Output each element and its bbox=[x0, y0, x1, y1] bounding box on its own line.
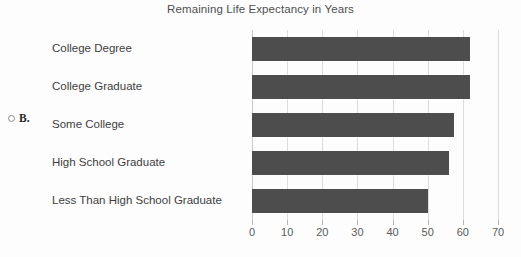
x-tick-label: 50 bbox=[422, 226, 434, 238]
tick-mark-0 bbox=[252, 220, 253, 225]
gridline-70 bbox=[498, 30, 499, 220]
tick-mark-30 bbox=[357, 220, 358, 225]
bar bbox=[252, 151, 449, 175]
x-tick-label: 70 bbox=[492, 226, 504, 238]
category-label: College Graduate bbox=[52, 81, 142, 93]
x-tick-label: 0 bbox=[249, 226, 255, 238]
plot-area: 010203040506070 bbox=[252, 30, 498, 220]
radio-unselected-icon[interactable] bbox=[8, 115, 15, 122]
bar bbox=[252, 37, 470, 61]
x-tick-label: 30 bbox=[351, 226, 363, 238]
category-label: Some College bbox=[52, 119, 124, 131]
category-label: Less Than High School Graduate bbox=[52, 195, 222, 207]
tick-mark-40 bbox=[393, 220, 394, 225]
tick-mark-70 bbox=[498, 220, 499, 225]
x-tick-label: 20 bbox=[316, 226, 328, 238]
tick-mark-20 bbox=[322, 220, 323, 225]
category-label: High School Graduate bbox=[52, 157, 165, 169]
tick-mark-60 bbox=[463, 220, 464, 225]
bar bbox=[252, 189, 428, 213]
category-axis-labels: College DegreeCollege GraduateSome Colle… bbox=[52, 30, 248, 220]
option-letter-label: B. bbox=[19, 113, 30, 125]
x-tick-label: 10 bbox=[281, 226, 293, 238]
answer-option-b[interactable]: B. bbox=[8, 113, 30, 125]
bar bbox=[252, 113, 454, 137]
chart-figure: Remaining Life Expectancy in Years B. Co… bbox=[0, 0, 521, 257]
category-label: College Degree bbox=[52, 43, 132, 55]
chart-title: Remaining Life Expectancy in Years bbox=[0, 3, 521, 15]
x-tick-label: 60 bbox=[457, 226, 469, 238]
bar bbox=[252, 75, 470, 99]
tick-mark-10 bbox=[287, 220, 288, 225]
tick-mark-50 bbox=[428, 220, 429, 225]
x-tick-label: 40 bbox=[386, 226, 398, 238]
